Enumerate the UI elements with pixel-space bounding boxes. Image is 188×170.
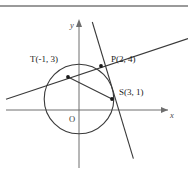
point-label-p: P(2, 4) bbox=[111, 54, 136, 64]
point-label-t: T(-1, 3) bbox=[30, 54, 58, 64]
y-axis-label: y bbox=[69, 20, 74, 30]
x-axis-label: x bbox=[169, 110, 174, 120]
geometry-figure: T(-1, 3) P(2, 4) S(3, 1) y x O bbox=[0, 0, 188, 170]
tangent-line-at-t bbox=[6, 39, 188, 100]
point-marker-t bbox=[66, 75, 70, 79]
axes-group bbox=[6, 19, 168, 168]
origin-label: O bbox=[69, 114, 75, 124]
point-label-s: S(3, 1) bbox=[119, 87, 144, 97]
chord-segment-ts bbox=[68, 77, 112, 99]
y-axis-arrow-icon bbox=[76, 19, 82, 27]
point-marker-s bbox=[110, 97, 114, 101]
point-marker-p bbox=[99, 64, 103, 68]
x-axis-arrow-icon bbox=[161, 107, 168, 113]
geometry-canvas: T(-1, 3) P(2, 4) S(3, 1) y x O bbox=[0, 0, 188, 170]
